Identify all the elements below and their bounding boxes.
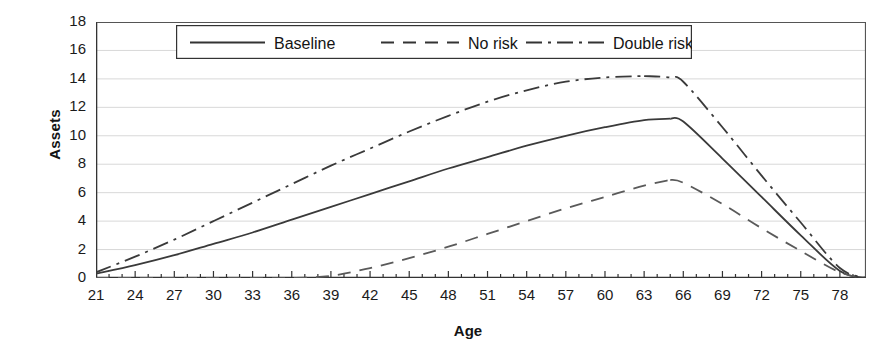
series-double-risk: [96, 76, 866, 278]
x-tick-label: 54: [507, 286, 547, 303]
y-tick-label: 0: [46, 269, 86, 284]
y-tick-label: 18: [46, 13, 86, 28]
chart-legend: BaselineNo riskDouble risk: [176, 25, 692, 59]
x-tick-label: 21: [76, 286, 116, 303]
y-tick-label: 2: [46, 241, 86, 256]
x-tick-label: 33: [233, 286, 273, 303]
x-tick-label: 60: [585, 286, 625, 303]
x-tick-label: 24: [115, 286, 155, 303]
y-axis-tick-labels: 024681012141618: [42, 0, 86, 358]
plot-svg: [96, 22, 866, 278]
series-no-risk: [96, 180, 866, 278]
x-tick-label: 39: [311, 286, 351, 303]
series-rise-segment: [96, 180, 670, 278]
y-tick-label: 14: [46, 70, 86, 85]
x-tick-label: 51: [468, 286, 508, 303]
legend-label: Double risk: [613, 35, 692, 52]
series-fall-segment: [644, 76, 866, 278]
x-tick-label: 75: [781, 286, 821, 303]
x-tick-label: 72: [742, 286, 782, 303]
y-tick-label: 12: [46, 98, 86, 113]
assets-by-age-line-chart: Assets 024681012141618 21242730333639424…: [0, 0, 892, 358]
plot-area: [96, 22, 866, 278]
x-tick-label: 36: [272, 286, 312, 303]
x-tick-label: 27: [154, 286, 194, 303]
series-rise-segment: [96, 76, 644, 272]
x-tick-label: 63: [624, 286, 664, 303]
series-baseline: [96, 118, 866, 278]
x-tick-label: 66: [663, 286, 703, 303]
series-fall-segment: [670, 118, 866, 278]
x-axis-title-text: Age: [454, 322, 482, 339]
x-tick-label: 48: [428, 286, 468, 303]
series-fall-segment: [670, 180, 866, 278]
y-tick-label: 6: [46, 184, 86, 199]
y-tick-label: 10: [46, 127, 86, 142]
x-tick-label: 57: [546, 286, 586, 303]
y-tick-label: 4: [46, 212, 86, 227]
x-tick-label: 30: [193, 286, 233, 303]
x-tick-label: 45: [389, 286, 429, 303]
y-tick-label: 16: [46, 41, 86, 56]
legend-label: Baseline: [274, 35, 335, 52]
y-tick-label: 8: [46, 155, 86, 170]
x-axis-title: Age: [0, 322, 892, 339]
x-tick-label: 78: [820, 286, 860, 303]
legend-label: No risk: [468, 35, 519, 52]
x-tick-label: 69: [702, 286, 742, 303]
x-tick-label: 42: [350, 286, 390, 303]
